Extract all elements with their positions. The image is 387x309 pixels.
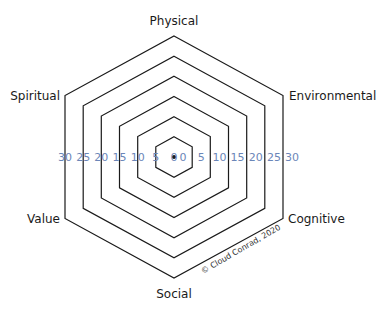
axis-label-social: Social [156,287,192,301]
scale-label: 20 [249,151,263,164]
copyright-text: © Cloud Conrad, 2020 [200,223,283,276]
radar-diagram: 302520151050051015202530 Physical Enviro… [0,0,387,309]
axis-label-cognitive: Cognitive [288,212,345,226]
scale-label: 5 [198,151,205,164]
scale-label: 25 [76,151,90,164]
scale-label: 0 [171,151,178,164]
scale-label: 10 [131,151,145,164]
scale-label: 30 [58,151,72,164]
scale-label: 30 [285,151,299,164]
scale-labels: 302520151050051015202530 [58,151,299,164]
scale-label: 0 [180,151,187,164]
scale-label: 15 [231,151,245,164]
axis-label-environmental: Environmental [289,89,376,103]
scale-label: 10 [212,151,226,164]
axis-label-spiritual: Spiritual [10,89,60,103]
scale-label: 25 [267,151,281,164]
scale-label: 20 [94,151,108,164]
scale-label: 15 [113,151,127,164]
scale-label: 5 [152,151,159,164]
axis-label-physical: Physical [150,14,199,28]
axis-label-value: Value [27,212,60,226]
